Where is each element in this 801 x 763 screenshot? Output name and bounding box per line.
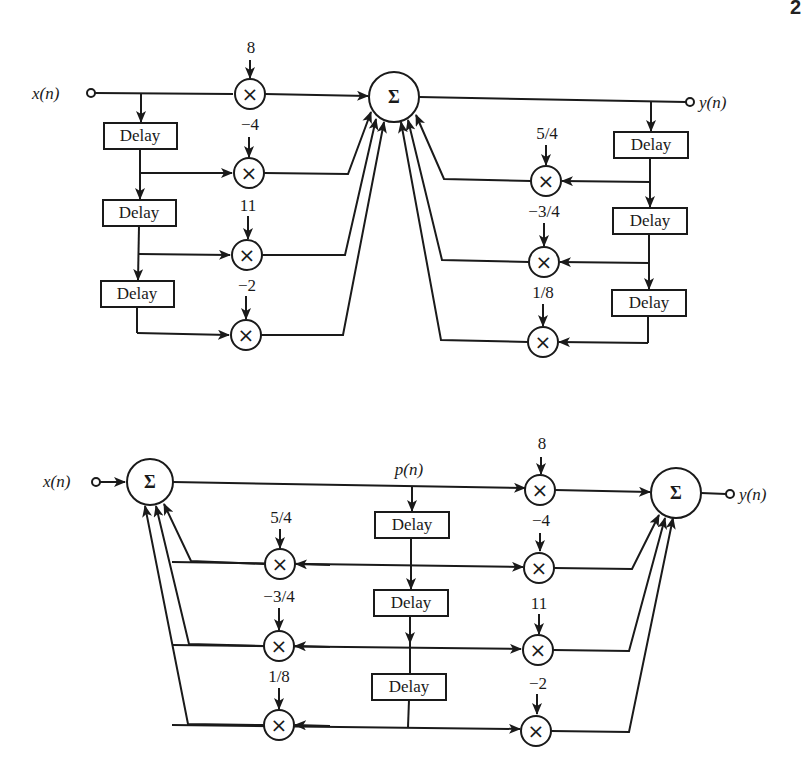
multiply-icon: × [272, 552, 289, 576]
bottom-ff-multiplier-4: −2 × [521, 674, 551, 746]
top-fb-tap [560, 262, 649, 263]
bottom-pn-label: p(n) [394, 460, 424, 479]
top-fb-tap [559, 342, 648, 343]
multiply-icon: × [538, 169, 555, 193]
top-input-line [95, 93, 233, 94]
top-ff-multiplier-1: 8 × [235, 38, 265, 109]
multiply-icon: × [241, 161, 258, 185]
bottom-fb-path [164, 504, 264, 564]
top-delay-label-1: Delay [120, 126, 161, 145]
top-output-label: y(n) [697, 93, 727, 112]
coef-label: 1/8 [532, 283, 554, 302]
top-fb-path [401, 122, 528, 342]
top-fb-path [408, 120, 529, 262]
bottom-ff-path [551, 518, 673, 732]
multiply-icon: × [531, 556, 548, 580]
bottom-chain-line [408, 700, 409, 727]
bottom-delay-label-3: Delay [389, 677, 430, 696]
coef-label: 8 [247, 38, 256, 57]
top-ff-path [261, 122, 384, 335]
sigma-icon: Σ [670, 483, 682, 503]
diagram-page: 2 x(n) Delay Delay Delay 8 × −4 [0, 0, 801, 763]
top-fb-multiplier-1: 5/4 × [531, 124, 561, 196]
bottom-pn-line [173, 482, 525, 488]
coef-label: −3/4 [263, 587, 295, 606]
top-chain-line [138, 226, 139, 280]
coef-label: −3/4 [528, 202, 560, 221]
bottom-fb-multiplier-2: −3/4 × [263, 587, 295, 661]
top-delay-label-3: Delay [117, 284, 158, 303]
diagram-bottom: x(n) Σ p(n) Delay Delay Delay 5/4 [42, 434, 767, 746]
multiply-icon: × [528, 719, 545, 743]
top-fb-path [416, 115, 531, 181]
bottom-fb-multiplier-1: 5/4 × [265, 508, 295, 579]
multiply-icon: × [530, 638, 547, 662]
bottom-fb-tap [296, 564, 330, 565]
coef-label: −4 [532, 511, 551, 530]
multiply-icon: × [239, 243, 256, 267]
bottom-fb-multiplier-3: 1/8 × [264, 667, 294, 740]
coef-label: 11 [240, 196, 256, 215]
bottom-fb-path [156, 506, 263, 646]
multiply-icon: × [271, 634, 288, 658]
bottom-fb-tap [295, 646, 330, 647]
top-delay-label-2: Delay [119, 203, 160, 222]
top-tap-line [137, 333, 229, 335]
bottom-right-sum-node: Σ [651, 468, 701, 518]
top-ff-multiplier-3: 11 × [232, 196, 262, 270]
multiply-icon: × [271, 713, 288, 737]
top-fb-delay-label-3: Delay [629, 293, 670, 312]
sigma-icon: Σ [144, 472, 156, 492]
coef-label: −4 [241, 115, 260, 134]
bottom-left-sum-node: Σ [127, 459, 173, 505]
top-ff-multiplier-4: −2 × [231, 276, 261, 350]
top-input-terminal [87, 89, 95, 97]
top-ff-path [264, 112, 371, 174]
multiply-icon: × [535, 330, 552, 354]
top-fb-delay-label-2: Delay [630, 211, 671, 230]
bottom-fb-path [145, 506, 263, 725]
top-fb-tap [562, 181, 650, 182]
multiply-icon: × [536, 250, 553, 274]
sigma-icon: Σ [388, 87, 400, 107]
top-sum-node: Σ [369, 72, 419, 122]
top-fb-multiplier-2: −3/4 × [528, 202, 560, 277]
page-number-fragment: 2 [790, 0, 801, 18]
coef-label: 5/4 [536, 124, 558, 143]
top-ff-path [265, 94, 368, 96]
top-fb-multiplier-3: 1/8 × [528, 283, 558, 357]
bottom-fb-tap [295, 725, 330, 726]
bottom-ff-path [554, 515, 659, 569]
top-output-terminal [686, 98, 694, 106]
bottom-tap-line [172, 725, 520, 729]
bottom-output-terminal [726, 490, 734, 498]
bottom-ff-multiplier-2: −4 × [524, 511, 554, 583]
coef-label: −2 [238, 276, 256, 295]
bottom-ff-multiplier-3: 11 × [523, 594, 553, 665]
bottom-delay-label-2: Delay [391, 593, 432, 612]
multiply-icon: × [242, 82, 259, 106]
top-input-label: x(n) [31, 84, 60, 103]
top-tap-line [139, 254, 230, 255]
coef-label: 11 [531, 594, 547, 613]
coef-label: 1/8 [268, 667, 290, 686]
coef-label: 5/4 [270, 508, 292, 527]
bottom-output-label: y(n) [737, 485, 767, 504]
top-ff-multiplier-2: −4 × [234, 115, 264, 188]
coef-label: −2 [529, 674, 547, 693]
bottom-ff-path [555, 490, 650, 492]
bottom-input-label: x(n) [42, 472, 71, 491]
coef-label: 8 [538, 434, 547, 453]
bottom-delay-label-1: Delay [392, 515, 433, 534]
top-ff-path [262, 119, 376, 255]
diagram-top: x(n) Delay Delay Delay 8 × −4 × [31, 38, 727, 357]
bottom-input-terminal [92, 478, 100, 486]
top-output-line [419, 97, 686, 102]
multiply-icon: × [238, 323, 255, 347]
multiply-icon: × [532, 478, 549, 502]
bottom-output-line [701, 493, 726, 494]
top-fb-delay-label-1: Delay [631, 135, 672, 154]
bottom-ff-multiplier-1: 8 × [525, 434, 555, 505]
